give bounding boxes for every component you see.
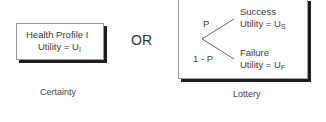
prob-failure-label: 1 - P bbox=[193, 53, 213, 64]
failure-utility: Utility = UF bbox=[240, 59, 285, 73]
failure-utility-prefix: Utility = U bbox=[240, 59, 281, 70]
lottery-caption: Lottery bbox=[233, 89, 261, 99]
prob-success-label: P bbox=[203, 18, 209, 29]
success-label: Success bbox=[240, 6, 276, 17]
certainty-caption: Certainty bbox=[40, 87, 76, 97]
success-utility-subscript: S bbox=[281, 23, 286, 30]
failure-label: Failure bbox=[240, 47, 269, 58]
success-utility-prefix: Utility = U bbox=[240, 18, 281, 29]
failure-utility-subscript: F bbox=[281, 64, 285, 71]
success-utility: Utility = US bbox=[240, 18, 286, 32]
